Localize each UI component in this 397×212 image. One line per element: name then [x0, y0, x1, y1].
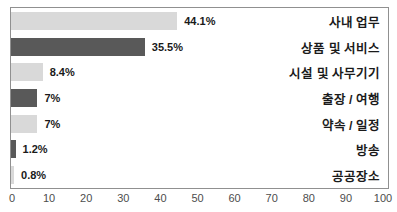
bar-value-label: 7%: [44, 92, 60, 104]
bar: [11, 38, 145, 56]
chart-row: 7% 약속 / 일정: [11, 111, 388, 137]
x-axis-tick-label: 10: [43, 192, 55, 204]
bar-value-label: 44.1%: [184, 15, 215, 27]
category-label: 사내 업무: [329, 11, 380, 30]
x-axis-tick-label: 80: [303, 192, 315, 204]
bar: [11, 12, 177, 30]
x-axis-tick-label: 0: [9, 192, 15, 204]
x-axis-tick-label: 30: [117, 192, 129, 204]
x-axis-tick-label: 100: [374, 192, 392, 204]
x-axis: 0 10 20 30 40 50 60 70 80 90 100: [12, 192, 383, 208]
bar-value-label: 0.8%: [21, 169, 46, 181]
category-label: 출장 / 여행: [322, 89, 380, 108]
bar-chart: 44.1% 사내 업무 35.5% 상품 및 서비스 8.4% 시설 및 사무기…: [0, 0, 397, 212]
chart-row: 35.5% 상품 및 서비스: [11, 34, 388, 60]
category-label: 공공장소: [332, 166, 380, 185]
chart-row: 44.1% 사내 업무: [11, 8, 388, 34]
chart-row: 8.4% 시설 및 사무기기: [11, 59, 388, 85]
bar: [11, 63, 43, 81]
category-label: 약속 / 일정: [322, 114, 380, 133]
plot-area: 44.1% 사내 업무 35.5% 상품 및 서비스 8.4% 시설 및 사무기…: [10, 7, 389, 189]
x-axis-tick-label: 40: [154, 192, 166, 204]
bar: [11, 89, 37, 107]
chart-row: 7% 출장 / 여행: [11, 85, 388, 111]
category-label: 시설 및 사무기기: [289, 63, 380, 82]
bar-value-label: 35.5%: [152, 41, 183, 53]
x-axis-tick-label: 90: [340, 192, 352, 204]
category-label: 상품 및 서비스: [301, 37, 380, 56]
chart-row: 0.8% 공공장소: [11, 162, 388, 188]
x-axis-tick-label: 50: [191, 192, 203, 204]
bar: [11, 140, 16, 158]
bar: [11, 115, 37, 133]
bar: [11, 166, 14, 184]
chart-row: 1.2% 방송: [11, 137, 388, 163]
bar-value-label: 8.4%: [50, 66, 75, 78]
x-axis-tick-label: 70: [266, 192, 278, 204]
bar-value-label: 7%: [44, 118, 60, 130]
x-axis-tick-label: 60: [228, 192, 240, 204]
bar-value-label: 1.2%: [23, 143, 48, 155]
x-axis-tick-label: 20: [80, 192, 92, 204]
category-label: 방송: [356, 140, 380, 159]
